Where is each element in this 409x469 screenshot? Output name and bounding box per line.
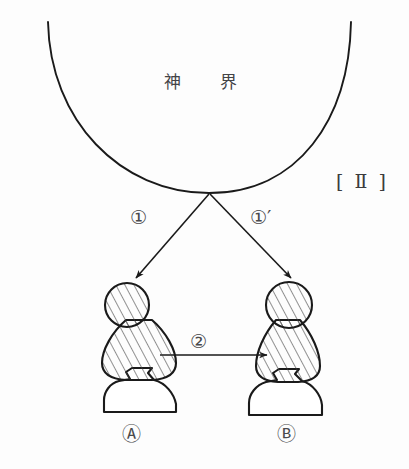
figure-a-body [102,320,176,380]
figure-b-label: Ⓑ [277,419,296,446]
diagram-canvas: 神 界 [ Ⅱ ] ① ①′ ② Ⓐ Ⓑ [0,0,409,469]
section-number-label: [ Ⅱ ] [336,170,388,192]
divine-realm-arc [48,22,351,193]
figure-b [249,282,322,415]
arrow-1prime-label: ①′ [250,206,271,228]
figure-a [102,283,176,412]
figure-b-body [256,320,320,382]
figure-a-label: Ⓐ [122,419,141,446]
arrow-2-label: ② [190,330,207,352]
divine-realm-label: 神 界 [140,68,260,93]
arrow-1-label: ① [130,206,147,228]
figure-b-head [266,282,312,328]
figure-a-head [105,283,149,327]
